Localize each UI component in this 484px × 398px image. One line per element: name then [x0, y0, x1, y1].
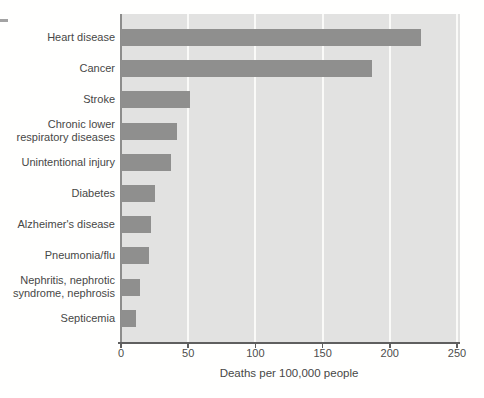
category-label: Septicemia [0, 312, 115, 325]
category-label: Heart disease [0, 31, 115, 44]
category-label: Unintentional injury [0, 156, 115, 169]
x-tick-label-100: 100 [246, 347, 264, 359]
bar-row: Unintentional injury [0, 147, 462, 178]
bar [121, 123, 177, 140]
category-label: Pneumonia/flu [0, 249, 115, 262]
bar-row: Heart disease [0, 22, 462, 53]
bar [121, 247, 149, 264]
leading-causes-of-death-bar-chart: Heart diseaseCancerStrokeChronic lower r… [0, 0, 484, 398]
bar [121, 310, 136, 327]
bar-row: Septicemia [0, 303, 462, 334]
bar-rows: Heart diseaseCancerStrokeChronic lower r… [0, 22, 462, 334]
x-tick-label-200: 200 [381, 347, 399, 359]
category-label: Diabetes [0, 187, 115, 200]
bar [121, 154, 171, 171]
category-label: Alzheimer's disease [0, 218, 115, 231]
bar [121, 279, 140, 296]
x-tick-label-0: 0 [118, 347, 124, 359]
bar [121, 29, 421, 46]
x-axis-title: Deaths per 100,000 people [121, 367, 457, 379]
category-label: Chronic lower respiratory diseases [0, 118, 115, 144]
bar [121, 185, 155, 202]
bar-row: Chronic lower respiratory diseases [0, 116, 462, 147]
bar-row: Stroke [0, 84, 462, 115]
category-label: Nephritis, nephrotic syndrome, nephrosis [0, 274, 115, 300]
x-tick-label-150: 150 [313, 347, 331, 359]
bar-row: Alzheimer's disease [0, 209, 462, 240]
bar-row: Pneumonia/flu [0, 240, 462, 271]
bar [121, 216, 151, 233]
x-tick-label-50: 50 [182, 347, 194, 359]
bar-row: Cancer [0, 53, 462, 84]
bar [121, 60, 372, 77]
bar-row: Nephritis, nephrotic syndrome, nephrosis [0, 272, 462, 303]
category-label: Cancer [0, 62, 115, 75]
category-label: Stroke [0, 93, 115, 106]
x-tick-label-250: 250 [448, 347, 466, 359]
bar-row: Diabetes [0, 178, 462, 209]
x-axis-line [118, 342, 460, 344]
bar [121, 91, 190, 108]
